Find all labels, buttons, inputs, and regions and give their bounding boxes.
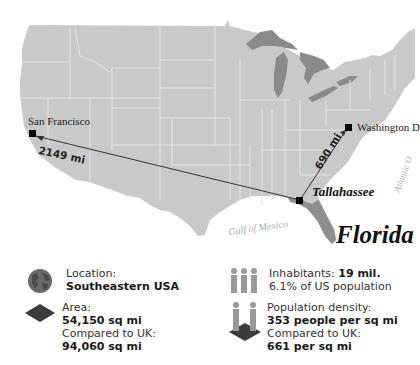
inhabitants-value: 19 mil. xyxy=(338,267,380,280)
tallahassee-marker[interactable] xyxy=(296,197,303,204)
density-value: 353 people per sq mi xyxy=(267,314,398,327)
florida-state xyxy=(288,198,336,244)
location-label: Location: xyxy=(66,267,179,280)
density-label: Population density: xyxy=(267,301,398,314)
san-francisco-label: San Francisco xyxy=(28,115,90,127)
fact-inhabitants: Inhabitants: 19 mil. 6.1% of US populati… xyxy=(229,267,392,301)
washington-label: Washington D xyxy=(357,121,420,133)
density-compare-value: 661 per sq mi xyxy=(267,340,398,353)
globe-icon xyxy=(26,267,66,301)
state-title: Florida xyxy=(336,221,414,249)
area-compare-value: 94,060 sq mi xyxy=(62,340,156,353)
density-icon xyxy=(227,301,267,335)
facts-panel: Location: Southeastern USA Area: 54,150 … xyxy=(0,255,415,365)
density-compare-label: Compared to UK: xyxy=(267,327,398,340)
area-label: Area: xyxy=(62,301,156,314)
inhabitants-share: 6.1% of US population xyxy=(269,280,392,293)
fact-area: Area: 54,150 sq mi Compared to UK: 94,06… xyxy=(22,301,156,353)
people-icon xyxy=(229,267,269,301)
capital-label: Tallahassee xyxy=(312,184,374,200)
inhabitants-label: Inhabitants: xyxy=(269,267,338,280)
fact-location: Location: Southeastern USA xyxy=(26,267,179,301)
washington-marker[interactable] xyxy=(345,124,352,131)
area-value: 54,150 sq mi xyxy=(62,314,156,327)
area-compare-label: Compared to UK: xyxy=(62,327,156,340)
location-value: Southeastern USA xyxy=(66,280,179,293)
san-francisco-marker[interactable] xyxy=(29,130,36,137)
fact-density: Population density: 353 people per sq mi… xyxy=(227,301,398,353)
us-map: San Francisco Washington D Tallahassee 2… xyxy=(0,0,415,250)
area-diamond-icon xyxy=(22,301,62,335)
